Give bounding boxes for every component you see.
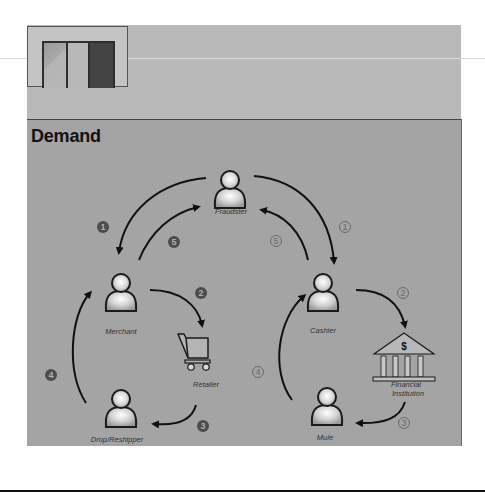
financial-institution-label-line2: Institution [392, 389, 424, 398]
drop-reshipper-person-icon [106, 390, 136, 427]
left-step-2-badge: 2 [195, 287, 207, 299]
left-step-1-badge: 1 [97, 221, 109, 233]
flow-diagram: $ [0, 0, 485, 496]
drop-reshipper-label: Drop/Reshipper [91, 435, 144, 444]
right-step-2-badge: 2 [397, 287, 409, 299]
right-step-1-badge: 1 [339, 221, 351, 233]
arrow-merchant-to-fraudster [139, 207, 198, 260]
arrow-fraudster-to-merchant [119, 178, 206, 252]
arrow-drop-to-merchant [73, 293, 90, 403]
left-cycle-arrows [73, 178, 206, 424]
bank-icon: $ [373, 333, 435, 381]
arrow-cashier-to-fraudster [262, 210, 308, 260]
financial-institution-label-line1: Financial [391, 380, 421, 389]
left-step-4-badge: 4 [45, 369, 57, 381]
arrow-retailer-to-drop [154, 405, 196, 424]
merchant-person-icon [106, 274, 136, 311]
mule-label: Mule [317, 433, 333, 442]
right-step-5-badge: 5 [270, 235, 282, 247]
svg-text:$: $ [401, 341, 407, 352]
arrow-merchant-to-retailer [150, 290, 202, 325]
shopping-cart-icon [178, 334, 210, 370]
arrow-fraudster-to-cashier [254, 176, 334, 262]
retailer-label: Retailer [193, 380, 219, 389]
bottom-divider [0, 490, 485, 492]
fraudster-label: Fraudster [215, 207, 247, 216]
left-step-5-badge: 5 [168, 236, 180, 248]
left-step-3-badge: 3 [197, 420, 209, 432]
arrow-mule-to-cashier [279, 296, 304, 400]
merchant-label: Merchant [105, 327, 136, 336]
mule-person-icon [312, 388, 342, 425]
cashier-person-icon [308, 274, 338, 311]
right-step-4-badge: 4 [252, 366, 264, 378]
fraudster-person-icon [215, 171, 245, 208]
cashier-label: Cashier [310, 326, 336, 335]
right-step-3-badge: 3 [398, 417, 410, 429]
